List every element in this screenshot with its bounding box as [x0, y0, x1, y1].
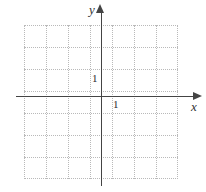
x-axis-line — [16, 96, 196, 97]
y-axis-line — [101, 10, 102, 186]
grid-line-vertical — [24, 25, 25, 179]
grid-line-vertical — [90, 25, 91, 179]
grid-line-vertical — [46, 25, 47, 179]
grid-line-vertical — [156, 25, 157, 179]
grid-line-vertical — [177, 25, 178, 179]
grid-line-vertical — [68, 25, 69, 179]
y-axis-tick-label-one: 1 — [92, 73, 98, 84]
x-axis-tick-label-one: 1 — [113, 99, 119, 110]
y-axis-label: y — [89, 3, 95, 16]
x-axis-label: x — [191, 100, 197, 113]
grid-line-vertical — [134, 25, 135, 179]
arrow-up-icon — [96, 4, 104, 13]
coordinate-plane-figure: y x 1 1 — [0, 0, 206, 192]
